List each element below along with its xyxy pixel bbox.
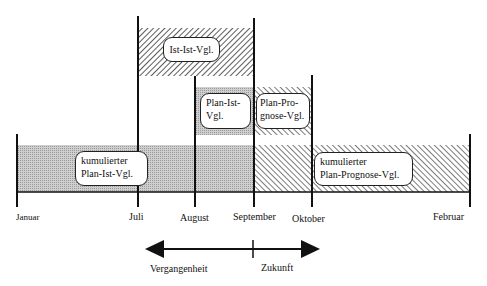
diagram-canvas: [0, 0, 487, 286]
label-plan-prognose-line2: gnose-Vgl.: [260, 109, 306, 122]
label-ist-ist: Ist-Ist-Vgl.: [163, 37, 220, 62]
label-kum-plan-prognose: kumulierter Plan-Prognose-Vgl.: [314, 152, 413, 186]
month-label-august: August: [180, 213, 209, 223]
label-ist-ist-text: Ist-Ist-Vgl.: [169, 44, 213, 55]
label-plan-prognose: Plan-Pro- gnose-Vgl.: [256, 93, 310, 129]
arrow-left-icon: [145, 240, 164, 258]
month-label-februar: Februar: [433, 212, 464, 222]
month-label-januar: Januar: [16, 213, 40, 222]
past-label: Vergangenheit: [150, 264, 208, 274]
month-label-oktober: Oktober: [292, 214, 325, 224]
label-plan-prognose-line1: Plan-Pro-: [260, 96, 306, 109]
month-label-september: September: [233, 212, 276, 222]
label-plan-ist-line2: Vgl.: [206, 109, 245, 122]
label-kum-plan-prognose-line1: kumulierter: [320, 155, 407, 168]
arrow-right-icon: [301, 240, 320, 258]
label-kum-plan-ist-line1: kumulierter: [81, 154, 142, 167]
label-plan-ist-line1: Plan-Ist-: [206, 96, 245, 109]
label-kum-plan-prognose-line2: Plan-Prognose-Vgl.: [320, 168, 407, 181]
future-label: Zukunft: [261, 263, 293, 273]
month-label-juli: Juli: [129, 212, 143, 222]
label-plan-ist: Plan-Ist- Vgl.: [200, 93, 251, 129]
label-kum-plan-ist: kumulierter Plan-Ist-Vgl.: [75, 151, 148, 186]
label-kum-plan-ist-line2: Plan-Ist-Vgl.: [81, 167, 142, 180]
